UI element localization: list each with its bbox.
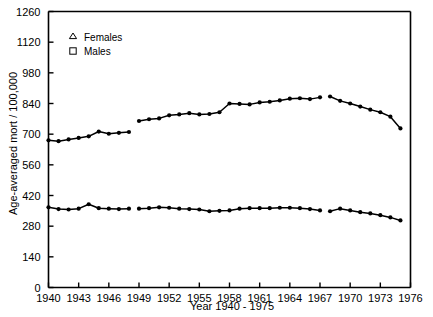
data-point [388, 115, 392, 119]
data-point [67, 137, 71, 141]
square-marker-icon [70, 48, 76, 54]
data-point [368, 211, 372, 215]
data-point [348, 101, 352, 105]
y-tick-label: 840 [22, 98, 40, 110]
data-point [258, 100, 262, 104]
data-point [167, 206, 171, 210]
chart-legend: FemalesMales [69, 32, 122, 57]
y-tick-label: 280 [22, 220, 40, 232]
data-point [46, 205, 50, 209]
data-point [217, 209, 221, 213]
data-point [87, 134, 91, 138]
x-tick-label: 1940 [36, 292, 60, 304]
x-tick-label: 1976 [398, 292, 422, 304]
x-tick-label: 1946 [97, 292, 121, 304]
data-point [308, 97, 312, 101]
data-point [46, 138, 50, 142]
chart-figure: 014028042056070084098011201260 194019431… [0, 0, 433, 317]
data-point [217, 110, 221, 114]
y-tick-label: 1120 [17, 36, 41, 48]
data-point [298, 96, 302, 100]
data-point [338, 99, 342, 103]
x-tick-label: 1973 [368, 292, 392, 304]
data-point [177, 112, 181, 116]
data-point [358, 210, 362, 214]
data-point [258, 206, 262, 210]
data-point [117, 207, 121, 211]
data-point [248, 206, 252, 210]
data-point [278, 206, 282, 210]
series-males [46, 94, 402, 143]
data-point [378, 213, 382, 217]
data-point [137, 119, 141, 123]
data-point [318, 208, 322, 212]
data-point [157, 116, 161, 120]
data-point [187, 207, 191, 211]
data-point [167, 113, 171, 117]
data-point [288, 97, 292, 101]
y-axis-tick-labels: 014028042056070084098011201260 [16, 6, 40, 294]
data-point [117, 131, 121, 135]
data-point [288, 206, 292, 210]
data-point [127, 207, 131, 211]
y-tick-label: 140 [22, 251, 40, 263]
data-point [207, 209, 211, 213]
data-point [157, 205, 161, 209]
legend-label: Males [84, 46, 111, 57]
data-point [187, 111, 191, 115]
data-point [268, 100, 272, 104]
data-point [97, 129, 101, 133]
data-point [328, 209, 332, 213]
data-point [278, 98, 282, 102]
data-point [77, 136, 81, 140]
data-point [56, 207, 60, 211]
data-point [147, 206, 151, 210]
data-point [147, 117, 151, 121]
y-tick-label: 980 [22, 67, 40, 79]
data-point [298, 206, 302, 210]
data-point [248, 102, 252, 106]
data-point [207, 112, 211, 116]
data-point [398, 218, 402, 222]
x-tick-label: 1949 [127, 292, 151, 304]
data-point [197, 207, 201, 211]
chart-series-group [46, 94, 402, 222]
data-point [268, 206, 272, 210]
data-point [328, 94, 332, 98]
data-point [56, 139, 60, 143]
data-point [137, 207, 141, 211]
x-tick-label: 1967 [308, 292, 332, 304]
data-point [237, 207, 241, 211]
data-point [358, 104, 362, 108]
legend-label: Females [84, 32, 122, 43]
x-tick-label: 1952 [157, 292, 181, 304]
data-point [67, 207, 71, 211]
data-point [338, 207, 342, 211]
data-point [227, 208, 231, 212]
data-point [398, 126, 402, 130]
y-tick-label: 700 [22, 128, 40, 140]
data-point [227, 101, 231, 105]
data-point [97, 206, 101, 210]
data-point [127, 130, 131, 134]
data-point [378, 110, 382, 114]
data-point [87, 202, 91, 206]
y-tick-label: 420 [22, 190, 40, 202]
data-point [197, 112, 201, 116]
triangle-marker-icon [69, 33, 76, 39]
data-point [237, 102, 241, 106]
y-tick-label: 560 [22, 159, 40, 171]
x-tick-label: 1964 [278, 292, 302, 304]
data-point [368, 108, 372, 112]
data-point [388, 215, 392, 219]
data-point [77, 207, 81, 211]
data-point [107, 132, 111, 136]
mortality-line-chart: 014028042056070084098011201260 194019431… [0, 0, 433, 317]
x-tick-label: 1943 [66, 292, 90, 304]
series-females [46, 202, 402, 222]
y-tick-label: 1260 [16, 6, 40, 18]
series-line-segment [139, 97, 320, 121]
data-point [177, 207, 181, 211]
data-point [308, 207, 312, 211]
data-point [348, 208, 352, 212]
